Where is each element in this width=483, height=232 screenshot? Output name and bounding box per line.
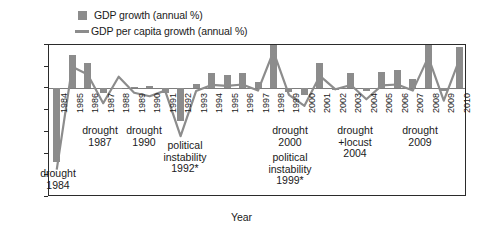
year-label-2007: 2007 — [415, 93, 425, 113]
line-swatch-icon — [75, 30, 89, 33]
legend-item-gdp-per-capita-growth: GDP per capita growth (annual %) — [78, 24, 248, 38]
year-label-2009: 2009 — [446, 93, 456, 113]
annotation-political-instability-1992: politicalinstability1992* — [163, 140, 206, 175]
annotation-line: 2009 — [402, 137, 438, 149]
annotation-line: drought — [337, 125, 373, 137]
annotation-line: 1984 — [40, 180, 76, 192]
year-label-1992: 1992 — [183, 93, 193, 113]
annotation-line: drought — [272, 125, 308, 137]
legend-label-gdp-growth: GDP growth (annual %) — [94, 9, 203, 21]
legend-item-gdp-growth: GDP growth (annual %) — [78, 8, 248, 22]
year-label-1996: 1996 — [245, 93, 255, 113]
annotation-line: 1987 — [82, 137, 118, 149]
y-tick-mark — [44, 196, 48, 197]
year-label-1989: 1989 — [137, 93, 147, 113]
year-label-2000: 2000 — [307, 93, 317, 113]
year-label-2008: 2008 — [431, 93, 441, 113]
annotation-line: drought — [402, 125, 438, 137]
annotation-drought-1990: drought1990 — [126, 125, 162, 148]
year-label-2004: 2004 — [369, 93, 379, 113]
year-label-1987: 1987 — [106, 93, 116, 113]
year-label-1999: 1999 — [291, 93, 301, 113]
year-label-1986: 1986 — [90, 93, 100, 113]
annotation-line: political — [163, 140, 206, 152]
year-label-1991: 1991 — [168, 93, 178, 113]
year-label-2001: 2001 — [322, 93, 332, 113]
year-label-1995: 1995 — [230, 93, 240, 113]
year-label-1984: 1984 — [59, 93, 69, 113]
gdp-per-capita-line — [57, 52, 460, 170]
line-series-layer — [49, 45, 467, 197]
year-label-2006: 2006 — [400, 93, 410, 113]
annotation-drought-locust-2004: drought+locust2004 — [337, 125, 373, 160]
annotation-line: 1999* — [268, 175, 311, 187]
annotation-political-instability-1999: politicalinstability1999* — [268, 152, 311, 187]
year-label-2005: 2005 — [384, 93, 394, 113]
bar-swatch-icon — [78, 11, 87, 20]
year-label-1990: 1990 — [152, 93, 162, 113]
annotation-line: 2004 — [337, 148, 373, 160]
year-label-1998: 1998 — [276, 93, 286, 113]
annotation-drought-2000: drought2000 — [272, 125, 308, 148]
year-label-2002: 2002 — [338, 93, 348, 113]
annotation-line: drought — [40, 168, 76, 180]
annotation-line: drought — [82, 125, 118, 137]
year-label-2003: 2003 — [353, 93, 363, 113]
year-label-1997: 1997 — [261, 93, 271, 113]
annotation-line: drought — [126, 125, 162, 137]
year-label-2010: 2010 — [462, 93, 472, 113]
annotation-line: 1992* — [163, 163, 206, 175]
year-label-1985: 1985 — [75, 93, 85, 113]
year-label-1994: 1994 — [214, 93, 224, 113]
legend-label-gdp-per-capita-growth: GDP per capita growth (annual %) — [91, 25, 248, 37]
year-label-1988: 1988 — [121, 93, 131, 113]
plot-area — [49, 45, 465, 195]
annotation-drought-1987: drought1987 — [82, 125, 118, 148]
annotation-drought-2009: drought2009 — [402, 125, 438, 148]
plot-frame — [48, 44, 466, 196]
annotation-line: 2000 — [272, 137, 308, 149]
year-label-1993: 1993 — [199, 93, 209, 113]
annotation-drought-1984: drought1984 — [40, 168, 76, 191]
annotation-line: 1990 — [126, 137, 162, 149]
annotation-line: political — [268, 152, 311, 164]
chart-figure: GDP growth (annual %) GDP per capita gro… — [0, 0, 483, 232]
x-axis-title: Year — [0, 211, 483, 223]
chart-legend: GDP growth (annual %) GDP per capita gro… — [78, 8, 248, 40]
